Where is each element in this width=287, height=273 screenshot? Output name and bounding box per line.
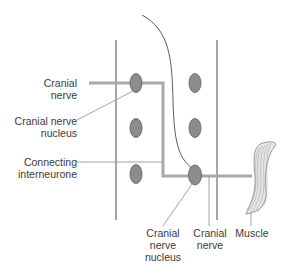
midline-curve bbox=[142, 15, 192, 168]
label-cranial-nerve-bottom: Cranial nerve bbox=[189, 227, 231, 251]
nucleus-right-middle bbox=[189, 119, 201, 138]
nucleus-right-top bbox=[189, 74, 201, 93]
leader-cranial-nerve-nucleus-left bbox=[77, 91, 133, 120]
label-connecting-interneurone: Connecting interneurone bbox=[18, 156, 77, 180]
nucleus-right-bottom bbox=[189, 165, 202, 185]
label-cranial-nerve-left: Cranial nerve bbox=[44, 77, 77, 101]
label-muscle: Muscle bbox=[232, 227, 272, 239]
label-cranial-nerve-nucleus-bottom: Cranial nerve nucleus bbox=[140, 227, 186, 263]
leader-cranial-nerve-nucleus-bottom bbox=[163, 184, 192, 226]
muscle-icon bbox=[246, 142, 276, 214]
nucleus-left-middle bbox=[130, 119, 142, 138]
nucleus-left-top bbox=[130, 74, 142, 93]
nucleus-left-bottom bbox=[130, 165, 142, 184]
label-cranial-nerve-nucleus-left: Cranial nerve nucleus bbox=[15, 115, 77, 139]
